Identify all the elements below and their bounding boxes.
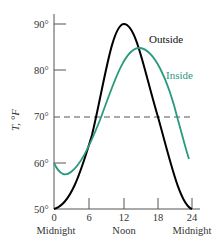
y-tick-80: 80° [34, 65, 49, 76]
x-tick-0: 0 [51, 212, 56, 223]
x-sub-midnight-start: Midnight [36, 225, 75, 236]
x-tick-labels: 0 6 12 18 24 [51, 212, 198, 223]
x-tick-6: 6 [86, 212, 91, 223]
y-tick-90: 90° [34, 19, 49, 30]
y-tick-labels: 90° 80° 70° 60° 50° [34, 19, 49, 215]
y-tick-50: 50° [34, 204, 49, 215]
y-tick-60: 60° [34, 158, 49, 169]
legend-outside: Outside [149, 33, 183, 45]
y-tick-70: 70° [34, 111, 49, 122]
x-sub-labels: Midnight Noon Midnight [36, 225, 211, 236]
y-ticks [54, 24, 66, 163]
y-axis-title: T, °F [9, 109, 21, 131]
x-tick-18: 18 [153, 212, 164, 223]
chart: 90° 80° 70° 60° 50° T, °F 0 6 12 18 24 M… [0, 0, 222, 243]
x-ticks [89, 198, 192, 209]
legend-inside: Inside [166, 69, 193, 81]
x-tick-12: 12 [119, 212, 130, 223]
x-sub-noon: Noon [112, 225, 136, 236]
x-tick-24: 24 [187, 212, 198, 223]
x-sub-midnight-end: Midnight [172, 225, 211, 236]
